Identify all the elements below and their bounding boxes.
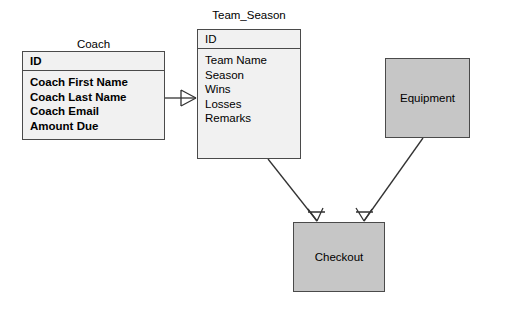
team-season-attribute-list: Team Name Season Wins Losses Remarks [198,49,300,130]
connector-team-season-checkout [268,159,325,221]
equipment-label: Equipment [400,92,455,104]
connector-coach-team-season [165,90,196,106]
coach-attribute: Coach Email [30,104,164,119]
coach-attribute: Coach First Name [30,75,164,90]
team-season-attribute: Wins [205,82,300,97]
coach-attribute: Coach Last Name [30,90,164,105]
entity-equipment[interactable]: Equipment [385,58,470,138]
team-season-attribute: Team Name [205,53,300,68]
coach-attribute: Amount Due [30,119,164,134]
team-season-attribute: Remarks [205,111,300,126]
er-diagram-canvas: Coach ID Coach First Name Coach Last Nam… [0,0,510,311]
entity-team-season[interactable]: ID Team Name Season Wins Losses Remarks [197,29,301,159]
connector-equipment-checkout [356,138,423,221]
coach-title: Coach [22,38,165,50]
team-season-title: Team_Season [197,9,301,21]
team-season-attribute: Season [205,68,300,83]
team-season-attribute: Losses [205,97,300,112]
entity-checkout[interactable]: Checkout [293,222,385,292]
checkout-label: Checkout [315,251,364,263]
coach-attribute-list: Coach First Name Coach Last Name Coach E… [23,71,164,137]
entity-coach[interactable]: ID Coach First Name Coach Last Name Coac… [22,51,165,140]
team-season-primary-key: ID [198,30,300,49]
coach-primary-key: ID [23,52,164,71]
